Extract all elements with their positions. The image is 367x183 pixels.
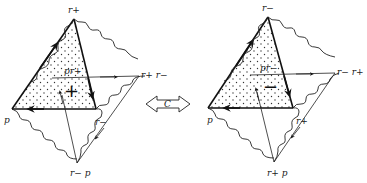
left-octahedron: + r+ pr+ r+ r− p r− r− p (4, 5, 168, 178)
right-face-sign: − (263, 76, 278, 97)
conjugation-operator: C (146, 96, 190, 112)
right-label-top: r− (262, 3, 274, 13)
right-wavy-p-bottom (208, 108, 274, 158)
left-wavy-p-bottom (12, 109, 77, 159)
left-label-bottom: r− p (70, 168, 91, 178)
diagram-canvas: + r+ pr+ r+ r− p r− r− p C − r− pr− (0, 0, 367, 183)
right-label-right: r− r+ (337, 67, 364, 77)
left-label-right: r+ r− (141, 70, 168, 80)
right-label-edge: r+ (296, 116, 308, 126)
right-edge-arrow-diag (292, 127, 300, 137)
left-label-edge: r− (95, 117, 107, 127)
left-wavy-inner-right (96, 76, 145, 109)
left-edge-arrow-diag (96, 128, 104, 138)
left-shaded-face (12, 19, 96, 109)
left-label-left: p (4, 115, 10, 125)
right-label-face: pr− (260, 63, 278, 73)
right-octahedron: − r− pr− r− r+ p r+ r+ p (207, 3, 364, 178)
left-label-face: pr+ (64, 66, 82, 76)
right-label-left: p (207, 115, 213, 125)
right-wavy-inner-right (293, 73, 339, 108)
left-face-sign: + (64, 80, 79, 101)
operator-label: C (164, 99, 171, 109)
left-label-top: r+ (68, 5, 80, 15)
left-wavy-top-right (74, 19, 138, 59)
right-label-bottom: r+ p (267, 168, 288, 178)
